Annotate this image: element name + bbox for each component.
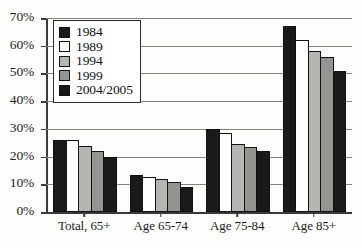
bar xyxy=(53,140,67,212)
legend-label: 1984 xyxy=(76,25,103,39)
bar xyxy=(256,151,270,212)
x-tick xyxy=(160,212,162,217)
x-axis-labels: Total, 65+Age 65-74Age 75-84Age 85+ xyxy=(46,218,352,234)
bar-chart: 70%60%50%40%30%20%10%0% Total, 65+Age 65… xyxy=(0,0,362,250)
bar xyxy=(180,187,194,212)
legend-swatch-icon xyxy=(59,41,70,52)
bar xyxy=(283,26,297,212)
bar xyxy=(219,133,233,212)
y-tick-label: 40% xyxy=(0,92,34,108)
bar xyxy=(78,146,92,213)
bar xyxy=(231,144,245,212)
bar xyxy=(244,147,258,212)
bar xyxy=(320,57,334,212)
legend-item: 1989 xyxy=(59,40,133,55)
bar xyxy=(66,140,80,212)
bar xyxy=(91,151,105,212)
bar xyxy=(295,40,309,212)
bar xyxy=(130,175,144,212)
legend-label: 1999 xyxy=(76,69,103,83)
legend-item: 1999 xyxy=(59,69,133,84)
y-tick-label: 0% xyxy=(0,203,34,219)
y-tick-label: 20% xyxy=(0,148,34,164)
bar-group xyxy=(199,18,276,212)
bar xyxy=(155,179,169,212)
x-tick xyxy=(313,212,315,217)
x-tick xyxy=(84,212,86,217)
legend-item: 2004/2005 xyxy=(59,83,133,98)
x-tick xyxy=(237,212,239,217)
bar xyxy=(103,157,117,212)
y-tick-label: 60% xyxy=(0,37,34,53)
legend-label: 1994 xyxy=(76,54,103,68)
bar xyxy=(206,129,220,212)
bar-group xyxy=(276,18,353,212)
legend-item: 1984 xyxy=(59,25,133,40)
bar xyxy=(308,51,322,212)
x-axis-label: Age 75-84 xyxy=(199,218,276,234)
gridline-0: 0% xyxy=(46,212,352,213)
legend-swatch-icon xyxy=(59,27,70,38)
bar xyxy=(142,177,156,212)
legend-swatch-icon xyxy=(59,85,70,96)
y-tick-label: 50% xyxy=(0,64,34,80)
y-tick-label: 10% xyxy=(0,175,34,191)
x-axis-label: Age 85+ xyxy=(276,218,353,234)
y-tick-label: 30% xyxy=(0,120,34,136)
bar xyxy=(167,182,181,212)
legend-swatch-icon xyxy=(59,70,70,81)
legend-label: 2004/2005 xyxy=(76,83,133,97)
bar xyxy=(333,71,347,212)
legend-item: 1994 xyxy=(59,54,133,69)
x-axis-label: Total, 65+ xyxy=(46,218,123,234)
x-axis-label: Age 65-74 xyxy=(123,218,200,234)
legend-swatch-icon xyxy=(59,56,70,67)
legend-label: 1989 xyxy=(76,40,103,54)
y-tick-label: 70% xyxy=(0,9,34,25)
legend: 19841989199419992004/2005 xyxy=(53,20,141,103)
y-tick-0 xyxy=(41,212,46,214)
